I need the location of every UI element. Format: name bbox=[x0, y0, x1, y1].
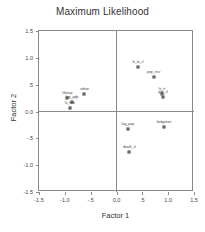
y-tick-label: -.5 bbox=[27, 135, 33, 141]
data-point-marker bbox=[163, 125, 166, 128]
y-tick bbox=[36, 31, 39, 32]
y-tick bbox=[36, 112, 39, 113]
data-point-label: log_gdp bbox=[66, 95, 78, 99]
x-tick-label: .5 bbox=[140, 197, 145, 203]
x-tick bbox=[117, 192, 118, 195]
data-point-marker bbox=[69, 106, 72, 109]
y-tick bbox=[36, 165, 39, 166]
x-tick bbox=[194, 192, 195, 195]
data-point-marker bbox=[162, 96, 165, 99]
x-tick bbox=[65, 192, 66, 195]
x-axis-title: Factor 1 bbox=[38, 211, 193, 220]
data-point-label: log_pop bbox=[122, 122, 134, 126]
y-tick bbox=[36, 85, 39, 86]
x-tick-label: -.5 bbox=[87, 197, 93, 203]
x-tick-label: -1.0 bbox=[60, 197, 69, 203]
x-tick bbox=[39, 192, 40, 195]
y-axis-title: Factor 2 bbox=[9, 73, 18, 143]
y-tick-label: -1.0 bbox=[24, 162, 33, 168]
chart-title: Maximum Likelihood bbox=[0, 6, 205, 17]
data-point-label: gdp_rl bbox=[158, 90, 168, 94]
data-point-marker bbox=[83, 92, 86, 95]
data-point-label: pop_incr bbox=[147, 70, 160, 74]
data-point-label: death_rt bbox=[123, 145, 136, 149]
x-tick-label: 1.0 bbox=[164, 197, 172, 203]
x-tick bbox=[91, 192, 92, 195]
y-tick-label: 0.0 bbox=[25, 109, 33, 115]
y-tick bbox=[36, 58, 39, 59]
data-point-marker bbox=[137, 66, 140, 69]
horizontal-origin-axis bbox=[39, 111, 194, 112]
y-tick bbox=[36, 138, 39, 139]
y-tick-label: .5 bbox=[28, 82, 33, 88]
y-tick-label: 1.0 bbox=[25, 55, 33, 61]
data-point-marker bbox=[126, 128, 129, 131]
data-point-label: b_to_rl bbox=[133, 60, 144, 64]
data-point-marker bbox=[152, 75, 155, 78]
x-tick-label: 0.0 bbox=[113, 197, 121, 203]
data-point-marker bbox=[128, 150, 131, 153]
x-tick-label: 1.5 bbox=[190, 197, 198, 203]
data-point-label: lit_fem bbox=[65, 101, 75, 105]
plot-area: -1.5-1.0-.50.0.51.01.51.51.0.50.0-.5-1.0… bbox=[38, 30, 193, 191]
y-tick bbox=[36, 192, 39, 193]
y-tick-label: 1.5 bbox=[25, 28, 33, 34]
maximum-likelihood-scatter-plot: Maximum Likelihood -1.5-1.0-.50.0.51.01.… bbox=[0, 0, 205, 232]
x-tick bbox=[168, 192, 169, 195]
y-tick-label: -1.5 bbox=[24, 189, 33, 195]
data-point-label: urban bbox=[80, 87, 89, 91]
x-tick-label: -1.5 bbox=[34, 197, 43, 203]
data-point-label: babymort bbox=[157, 120, 172, 124]
x-tick bbox=[142, 192, 143, 195]
